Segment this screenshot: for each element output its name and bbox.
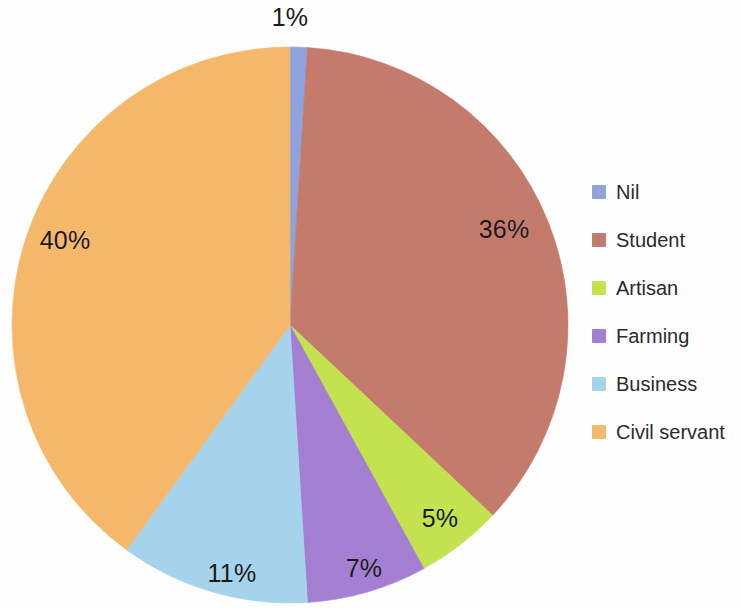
legend-item-farming[interactable]: Farming bbox=[592, 312, 740, 360]
legend-swatch-icon bbox=[592, 425, 606, 439]
slice-label-nil: 1% bbox=[272, 3, 309, 32]
slice-label-business: 11% bbox=[208, 559, 257, 588]
legend-swatch-icon bbox=[592, 185, 606, 199]
chart-legend: NilStudentArtisanFarmingBusinessCivil se… bbox=[592, 168, 740, 456]
legend-item-label: Student bbox=[616, 230, 685, 250]
legend-item-business[interactable]: Business bbox=[592, 360, 740, 408]
slice-label-civil-servant: 40% bbox=[40, 226, 91, 255]
legend-item-label: Artisan bbox=[616, 278, 678, 298]
legend-item-label: Nil bbox=[616, 182, 639, 202]
pie-svg bbox=[0, 0, 575, 609]
slice-label-farming: 7% bbox=[346, 554, 383, 583]
slice-label-student: 36% bbox=[479, 215, 530, 244]
legend-item-nil[interactable]: Nil bbox=[592, 168, 740, 216]
legend-item-artisan[interactable]: Artisan bbox=[592, 264, 740, 312]
legend-item-label: Business bbox=[616, 374, 697, 394]
legend-item-label: Civil servant bbox=[616, 422, 725, 442]
legend-item-student[interactable]: Student bbox=[592, 216, 740, 264]
legend-item-civil-servant[interactable]: Civil servant bbox=[592, 408, 740, 456]
legend-swatch-icon bbox=[592, 329, 606, 343]
legend-swatch-icon bbox=[592, 233, 606, 247]
legend-item-label: Farming bbox=[616, 326, 689, 346]
slice-label-artisan: 5% bbox=[422, 504, 459, 533]
pie-plot-area: 1% 36% 5% 7% 11% 40% bbox=[0, 0, 575, 609]
legend-swatch-icon bbox=[592, 281, 606, 295]
legend-swatch-icon bbox=[592, 377, 606, 391]
pie-chart: 1% 36% 5% 7% 11% 40% NilStudentArtisanFa… bbox=[0, 0, 740, 609]
